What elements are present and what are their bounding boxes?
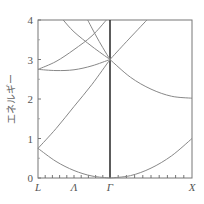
band-curve-band-L2.75-rise (38, 20, 106, 69)
band-curve-band-gamma-X-rise (110, 20, 147, 60)
y-axis-label: エネルギー (6, 74, 17, 124)
band-curve-band-top-right (88, 20, 110, 60)
y-tick-label: 2 (28, 93, 34, 105)
x-symmetry-label: X (188, 181, 197, 193)
plot-frame (38, 20, 192, 178)
y-tick-label: 4 (28, 14, 34, 26)
band-curves (38, 20, 192, 178)
band-curve-band-gamma-X-fall (110, 60, 192, 99)
band-curve-band-gamma-X-lower (110, 139, 192, 179)
x-symmetry-label: Γ (106, 181, 114, 193)
band-curve-band-L-lower (38, 148, 110, 178)
x-symmetry-labels: LΛΓX (34, 181, 197, 193)
band-structure-chart: 01234 LΛΓX エネルギー (0, 0, 204, 204)
band-curve-band-L-upper-to-gamma3 (38, 60, 110, 149)
y-tick-label: 1 (28, 133, 34, 145)
x-symmetry-label: L (34, 181, 41, 193)
y-tick-label: 0 (28, 172, 34, 184)
y-tick-label: 3 (28, 54, 34, 66)
y-tick-labels: 01234 (28, 14, 34, 184)
x-symmetry-label: Λ (70, 181, 78, 193)
